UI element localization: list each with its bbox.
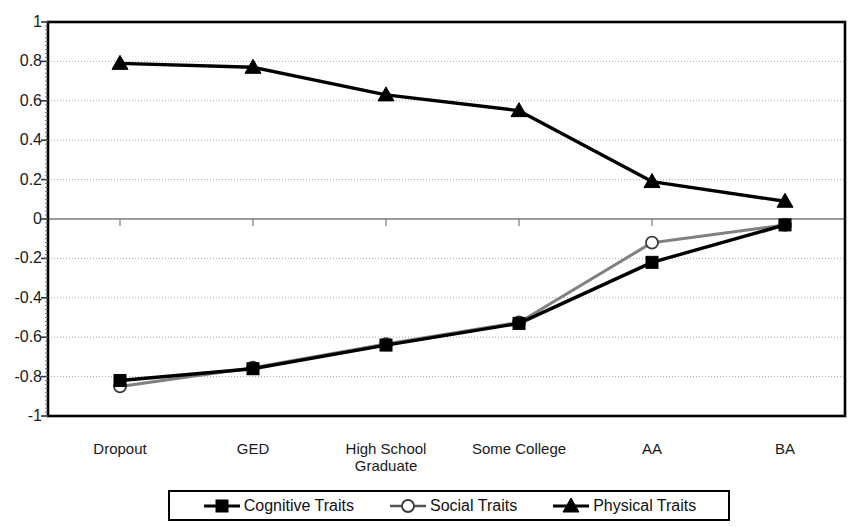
legend-label: Social Traits	[430, 498, 517, 514]
legend-label: Cognitive Traits	[244, 498, 354, 514]
x-tick-label: GED	[183, 440, 323, 457]
legend-entry[interactable]: Social Traits	[388, 497, 517, 515]
series-line	[120, 225, 785, 381]
marker-square	[247, 363, 259, 375]
x-tick-label: BA	[715, 440, 855, 457]
x-tick-label-line: Graduate	[316, 457, 456, 474]
legend-marker-open-circle-icon	[388, 497, 428, 515]
marker-square	[513, 317, 525, 329]
x-tick-label-line: Dropout	[50, 440, 190, 457]
legend-entry[interactable]: Physical Traits	[551, 497, 696, 515]
marker-square	[114, 375, 126, 387]
series-cognitive-traits	[114, 219, 791, 387]
marker-circle	[402, 500, 414, 512]
series-social-traits	[114, 219, 791, 393]
legend-marker-filled-square-icon	[202, 497, 242, 515]
marker-square	[779, 219, 791, 231]
x-tick-label-line: High School	[316, 440, 456, 457]
x-tick-label-line: AA	[582, 440, 722, 457]
chart-container: 10.80.60.40.20-0.2-0.4-0.6-0.8-1 Dropout…	[0, 0, 857, 527]
x-tick-label: AA	[582, 440, 722, 457]
x-tick-label-line: GED	[183, 440, 323, 457]
legend-marker-filled-triangle-icon	[551, 497, 591, 515]
series-line	[120, 63, 785, 201]
series-physical-traits	[112, 55, 793, 207]
x-tick-label: High SchoolGraduate	[316, 440, 456, 474]
legend-label: Physical Traits	[593, 498, 696, 514]
marker-square	[646, 256, 658, 268]
marker-triangle	[644, 174, 660, 188]
chart-legend: Cognitive TraitsSocial TraitsPhysical Tr…	[168, 490, 730, 521]
x-tick-label-line: Some College	[449, 440, 589, 457]
legend-entry[interactable]: Cognitive Traits	[202, 497, 354, 515]
marker-square	[380, 339, 392, 351]
x-tick-label: Some College	[449, 440, 589, 457]
data-series-layer	[112, 55, 793, 392]
zero-line	[48, 219, 845, 226]
marker-square	[216, 500, 228, 512]
marker-circle	[646, 237, 658, 249]
x-tick-label-line: BA	[715, 440, 855, 457]
axis-tick-marks	[41, 22, 48, 416]
series-line	[120, 225, 785, 387]
x-tick-label: Dropout	[50, 440, 190, 457]
